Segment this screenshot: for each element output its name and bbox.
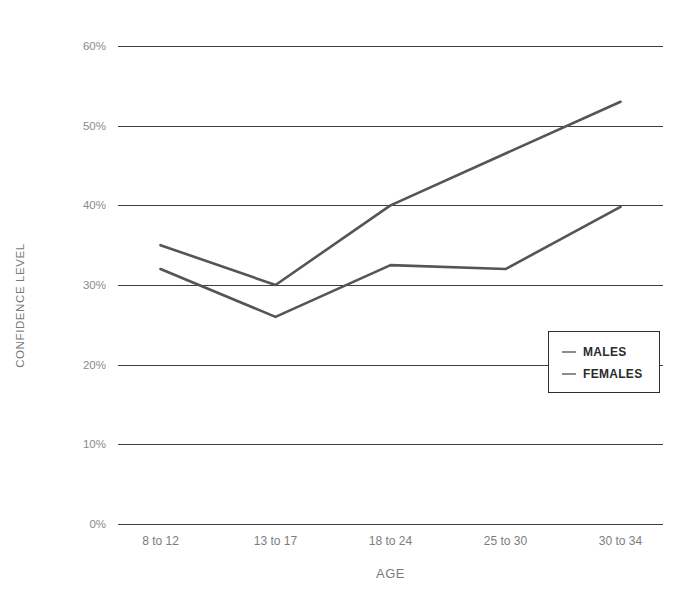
- y-tick-label: 0%: [46, 518, 106, 530]
- series-lines: [118, 46, 663, 524]
- y-tick-label: 40%: [46, 199, 106, 211]
- x-tick-label: 25 to 30: [484, 534, 527, 548]
- x-tick-label: 8 to 12: [142, 534, 179, 548]
- plot-area: [118, 46, 663, 524]
- legend-item-males[interactable]: MALES: [562, 341, 659, 363]
- legend: MALESFEMALES: [548, 331, 660, 393]
- legend-label: MALES: [583, 345, 627, 359]
- line-chart: CONFIDENCE LEVEL 0%10%20%30%40%50%60% 8 …: [0, 0, 697, 611]
- y-tick-label: 60%: [46, 40, 106, 52]
- y-axis-tick-labels: 0%10%20%30%40%50%60%: [46, 46, 106, 524]
- legend-item-females[interactable]: FEMALES: [562, 363, 659, 385]
- y-tick-label: 30%: [46, 279, 106, 291]
- legend-swatch-icon: [562, 373, 576, 375]
- series-line-males: [161, 102, 621, 285]
- series-line-females: [161, 207, 621, 317]
- x-tick-label: 13 to 17: [254, 534, 297, 548]
- x-tick-label: 18 to 24: [369, 534, 412, 548]
- gridline: [118, 524, 663, 525]
- x-tick-label: 30 to 34: [599, 534, 642, 548]
- legend-label: FEMALES: [583, 367, 642, 381]
- x-axis-title: AGE: [118, 566, 663, 581]
- y-tick-label: 50%: [46, 120, 106, 132]
- y-tick-label: 20%: [46, 359, 106, 371]
- y-tick-label: 10%: [46, 438, 106, 450]
- legend-swatch-icon: [562, 351, 576, 353]
- y-axis-title: CONFIDENCE LEVEL: [0, 0, 40, 611]
